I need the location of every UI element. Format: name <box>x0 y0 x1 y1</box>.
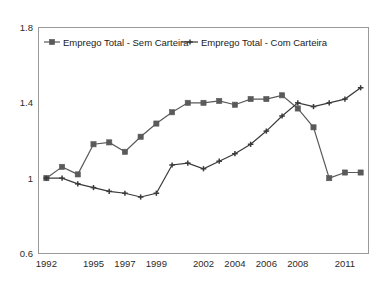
x-axis-tick-label: 1995 <box>83 258 104 269</box>
chart-canvas: 1.81.410.6 19921995199719992002200420062… <box>0 0 377 284</box>
data-point-marker <box>248 96 253 101</box>
x-axis-tick-label: 2006 <box>256 258 277 269</box>
data-point-marker <box>138 134 143 139</box>
data-point-marker <box>311 125 316 130</box>
data-point-marker <box>49 39 54 44</box>
data-point-marker <box>279 93 284 98</box>
x-axis-tick-label: 2011 <box>335 258 355 269</box>
legend-item-2: Emprego Total - Com Carteira <box>182 37 328 48</box>
y-axis-tick-label: 1 <box>28 173 33 184</box>
data-point-marker <box>91 142 96 147</box>
chart-legend: Emprego Total - Sem CarteiraEmprego Tota… <box>44 37 328 48</box>
data-point-marker <box>122 149 127 154</box>
data-point-marker <box>154 121 159 126</box>
x-axis-tick-label: 1999 <box>146 258 167 269</box>
x-axis-tick-labels: 199219951997199920022004200620082011 <box>36 258 355 269</box>
x-axis-tick-label: 1992 <box>36 258 57 269</box>
data-point-marker <box>358 170 363 175</box>
data-point-marker <box>169 110 174 115</box>
x-axis-tick-label: 2004 <box>224 258 245 269</box>
y-axis-tick-label: 1.8 <box>20 22 33 33</box>
data-point-marker <box>75 172 80 177</box>
data-point-marker <box>59 164 64 169</box>
x-axis-tick-label: 1997 <box>114 258 135 269</box>
legend-label: Emprego Total - Sem Carteira <box>63 37 189 48</box>
data-point-marker <box>185 100 190 105</box>
legend-item-1: Emprego Total - Sem Carteira <box>44 37 189 48</box>
y-axis-tick-label: 0.6 <box>20 248 33 259</box>
x-axis-tick-label: 2008 <box>287 258 308 269</box>
y-axis-tick-label: 1.4 <box>20 97 33 108</box>
data-point-marker <box>342 170 347 175</box>
data-point-marker <box>201 100 206 105</box>
data-point-marker <box>264 96 269 101</box>
line-chart: 1.81.410.6 19921995199719992002200420062… <box>0 0 377 284</box>
legend-label: Emprego Total - Com Carteira <box>201 37 328 48</box>
data-point-marker <box>107 140 112 145</box>
x-axis-tick-label: 2002 <box>193 258 214 269</box>
data-point-marker <box>327 176 332 181</box>
data-point-marker <box>295 106 300 111</box>
data-point-marker <box>232 102 237 107</box>
data-point-marker <box>217 98 222 103</box>
